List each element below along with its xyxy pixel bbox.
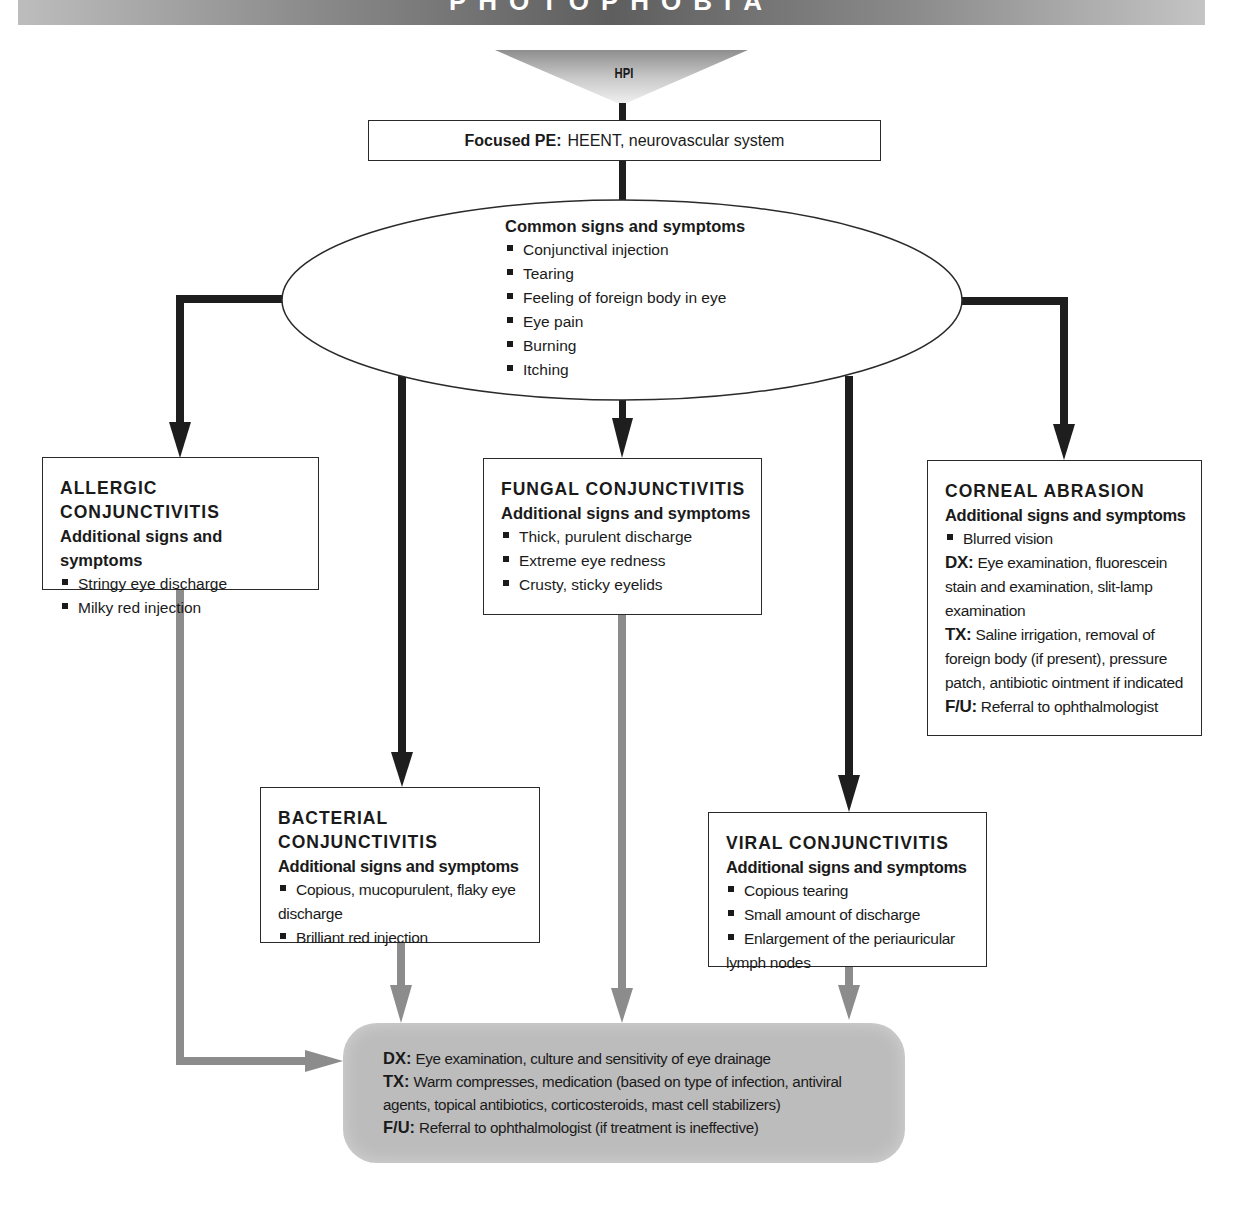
gray-arrow-fungal — [611, 615, 633, 1023]
outcome-tx: TX:Warm compresses, medication (based on… — [383, 1070, 885, 1116]
fungal-conjunctivitis-box: FUNGAL CONJUNCTIVITIS Additional signs a… — [483, 458, 762, 615]
bullet-icon — [62, 603, 68, 609]
arrow-to-corneal — [960, 297, 1075, 460]
bullet-icon — [503, 556, 509, 562]
corneal-fu: F/U:Referral to ophthalmologist — [945, 695, 1193, 719]
bullet-icon — [507, 245, 513, 251]
fungal-subtitle: Additional signs and symptoms — [501, 501, 751, 525]
common-signs: Common signs and symptoms Conjunctival i… — [505, 214, 745, 382]
focused-pe-label: Focused PE: — [465, 132, 562, 149]
hpi-label: HPI — [603, 64, 645, 81]
bullet-icon — [507, 293, 513, 299]
bullet-icon — [280, 933, 286, 939]
bullet-icon — [728, 934, 734, 940]
list-item: Enlargement of the periauricular lymph n… — [726, 927, 976, 975]
allergic-subtitle: Additional signs and symptoms — [60, 524, 308, 572]
bullet-icon — [507, 365, 513, 371]
list-item: Brilliant red injection — [278, 926, 529, 950]
list-item: Stringy eye discharge — [60, 572, 308, 596]
list-item: Copious, mucopurulent, flaky eye dischar… — [278, 878, 529, 926]
arrow-to-bacterial — [391, 376, 413, 787]
corneal-title: CORNEAL ABRASION — [945, 479, 1193, 503]
fungal-title: FUNGAL CONJUNCTIVITIS — [501, 477, 751, 501]
focused-pe-box: Focused PE:HEENT, neurovascular system — [368, 120, 881, 161]
bullet-icon — [728, 910, 734, 916]
list-item: Thick, purulent discharge — [501, 525, 751, 549]
bullet-icon — [728, 886, 734, 892]
list-item: Small amount of discharge — [726, 903, 976, 927]
bullet-icon — [947, 534, 953, 540]
bacterial-title: BACTERIAL CONJUNCTIVITIS — [278, 806, 529, 854]
bullet-icon — [507, 269, 513, 275]
list-item: Milky red injection — [60, 596, 308, 620]
list-item: Feeling of foreign body in eye — [505, 286, 745, 310]
allergic-conjunctivitis-box: ALLERGIC CONJUNCTIVITIS Additional signs… — [42, 457, 319, 590]
bullet-icon — [280, 885, 286, 891]
list-item: Blurred vision — [945, 527, 1193, 551]
corneal-abrasion-box: CORNEAL ABRASION Additional signs and sy… — [927, 460, 1202, 736]
bullet-icon — [507, 317, 513, 323]
list-item: Conjunctival injection — [505, 238, 745, 262]
list-item: Extreme eye redness — [501, 549, 751, 573]
focused-pe-text: HEENT, neurovascular system — [567, 132, 784, 149]
bullet-icon — [507, 341, 513, 347]
bacterial-subtitle: Additional signs and symptoms — [278, 854, 529, 878]
bullet-icon — [503, 532, 509, 538]
list-item: Crusty, sticky eyelids — [501, 573, 751, 597]
arrow-to-fungal — [612, 400, 633, 458]
common-signs-heading: Common signs and symptoms — [505, 214, 745, 238]
bullet-icon — [503, 580, 509, 586]
list-item: Tearing — [505, 262, 745, 286]
corneal-subtitle: Additional signs and symptoms — [945, 503, 1193, 527]
viral-subtitle: Additional signs and symptoms — [726, 855, 976, 879]
outcome-fu: F/U:Referral to ophthalmologist (if trea… — [383, 1116, 885, 1139]
outcome-dx: DX:Eye examination, culture and sensitiv… — [383, 1047, 885, 1070]
corneal-tx: TX:Saline irrigation, removal of foreign… — [945, 623, 1193, 695]
corneal-dx: DX:Eye examination, fluorescein stain an… — [945, 551, 1193, 623]
list-item: Itching — [505, 358, 745, 382]
outcome-box: DX:Eye examination, culture and sensitiv… — [343, 1023, 905, 1163]
arrow-to-allergic — [169, 295, 284, 458]
arrow-to-viral — [838, 376, 860, 812]
viral-title: VIRAL CONJUNCTIVITIS — [726, 831, 976, 855]
list-item: Copious tearing — [726, 879, 976, 903]
allergic-title: ALLERGIC CONJUNCTIVITIS — [60, 476, 308, 524]
list-item: Eye pain — [505, 310, 745, 334]
viral-conjunctivitis-box: VIRAL CONJUNCTIVITIS Additional signs an… — [708, 812, 987, 967]
bacterial-conjunctivitis-box: BACTERIAL CONJUNCTIVITIS Additional sign… — [260, 787, 540, 943]
gray-arrow-bacterial — [390, 943, 412, 1023]
bullet-icon — [62, 579, 68, 585]
list-item: Burning — [505, 334, 745, 358]
